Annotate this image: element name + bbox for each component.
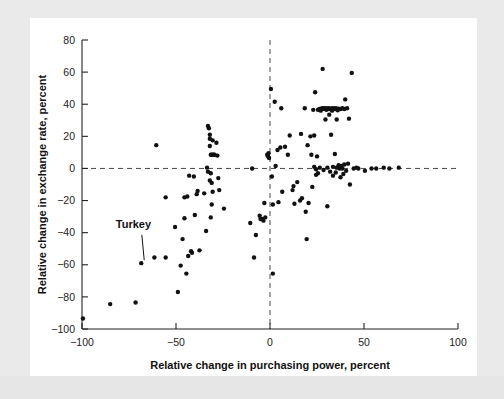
data-point [397, 165, 401, 169]
data-point [334, 170, 338, 174]
data-point [208, 144, 212, 148]
data-point [325, 204, 329, 208]
data-point [310, 185, 314, 189]
data-point [291, 184, 295, 188]
data-point [308, 134, 312, 138]
data-point [250, 166, 254, 170]
data-point [292, 202, 296, 206]
data-point [320, 67, 324, 71]
y-tick-label--40: −40 [57, 226, 75, 238]
data-point [208, 178, 212, 182]
x-tick-label--100: −100 [70, 336, 94, 348]
data-point [273, 100, 277, 104]
data-point [283, 145, 287, 149]
y-tick-label--20: −20 [57, 194, 75, 206]
data-point [279, 106, 283, 110]
data-point [304, 210, 308, 214]
data-point [288, 133, 292, 137]
data-point [273, 164, 277, 168]
data-point [179, 263, 183, 267]
data-point [344, 169, 348, 173]
data-point [286, 153, 290, 157]
data-point [348, 182, 352, 186]
turkey-label: Turkey [116, 218, 152, 230]
data-point [81, 316, 85, 320]
data-point [254, 233, 258, 237]
data-point [217, 188, 221, 192]
y-tick-label-0: 0 [69, 162, 75, 174]
data-point [182, 216, 186, 220]
data-point [313, 90, 317, 94]
x-tick-label-0: 0 [267, 336, 273, 348]
data-point [267, 156, 271, 160]
scatter-figure: −100−80−60−40−20020406080−100−50050100 T… [30, 18, 477, 376]
x-tick-label--50: −50 [167, 336, 185, 348]
data-point [319, 108, 323, 112]
data-point [263, 215, 267, 219]
scatter-chart: −100−80−60−40−20020406080−100−50050100 T… [30, 18, 477, 376]
y-tick-label-20: 20 [63, 130, 75, 142]
data-point [204, 229, 208, 233]
data-point [329, 133, 333, 137]
y-tick-label-80: 80 [63, 34, 75, 46]
data-point [356, 166, 360, 170]
data-point [350, 71, 354, 75]
data-point [335, 117, 339, 121]
data-point [327, 112, 331, 116]
data-point [197, 248, 201, 252]
data-point [315, 154, 319, 158]
data-point [266, 151, 270, 155]
data-point [316, 171, 320, 175]
data-point [192, 174, 196, 178]
data-point [214, 141, 218, 145]
data-point [305, 143, 309, 147]
data-point [205, 165, 209, 169]
data-point [304, 237, 308, 241]
data-point [328, 169, 332, 173]
data-point [306, 201, 310, 205]
data-point [262, 201, 266, 205]
data-point [139, 261, 143, 265]
data-point [187, 173, 191, 177]
data-point [210, 190, 214, 194]
data-point [216, 176, 220, 180]
data-point [324, 108, 328, 112]
turkey-label-leader-line [142, 235, 144, 260]
data-point [152, 255, 156, 259]
data-point [342, 162, 346, 166]
data-point [333, 152, 337, 156]
page-margin-bottom [0, 376, 504, 399]
data-point [347, 116, 351, 120]
data-point [280, 190, 284, 194]
data-point [180, 237, 184, 241]
data-point [215, 153, 219, 157]
data-point [278, 145, 282, 149]
data-point [369, 166, 373, 170]
data-point [331, 165, 335, 169]
y-axis-title: Relative change in exchange rate, percen… [36, 74, 48, 294]
x-axis-title: Relative change in purchasing power, per… [150, 359, 390, 371]
data-point [186, 254, 190, 258]
y-tick-label--60: −60 [57, 258, 75, 270]
y-tick-label--100: −100 [51, 323, 75, 335]
data-point [271, 271, 275, 275]
data-point [295, 180, 299, 184]
data-point [298, 198, 302, 202]
data-point [271, 202, 275, 206]
data-point [311, 108, 315, 112]
data-point [340, 166, 344, 170]
data-point [269, 87, 273, 91]
data-point [382, 165, 386, 169]
data-point [343, 97, 347, 101]
data-point [154, 143, 158, 147]
data-point [299, 132, 303, 136]
data-point [182, 195, 186, 199]
data-point [190, 251, 194, 255]
data-point [346, 161, 350, 165]
data-point [303, 106, 307, 110]
data-point [290, 188, 294, 192]
data-point [270, 174, 274, 178]
data-point [323, 117, 327, 121]
data-point [330, 108, 334, 112]
reference-lines [82, 40, 458, 329]
